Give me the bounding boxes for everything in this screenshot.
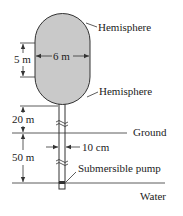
height-above-ground-label: 20 m xyxy=(12,113,35,125)
water-label: Water xyxy=(140,190,166,202)
pipe-break-lower xyxy=(56,160,68,166)
hemisphere-bottom-leader xyxy=(87,92,98,97)
hemisphere-top-label: Hemisphere xyxy=(98,21,151,33)
depth-below-ground-label: 50 m xyxy=(12,151,35,163)
pump-band xyxy=(59,181,65,184)
hemisphere-top-leader xyxy=(86,23,97,27)
tank-diameter-label: 6 m xyxy=(53,50,70,62)
pipe-diameter-label: 10 cm xyxy=(82,141,110,153)
cylinder-height-label: 5 m xyxy=(14,53,31,65)
hemisphere-bottom-label: Hemisphere xyxy=(99,85,152,97)
ground-label: Ground xyxy=(133,126,167,138)
pump-leader xyxy=(66,172,76,182)
water-tank-diagram: Hemisphere Hemisphere 5 m 6 m 20 m Groun… xyxy=(0,0,183,216)
pipe-break-upper xyxy=(56,121,68,127)
pump-label: Submersible pump xyxy=(78,162,161,174)
